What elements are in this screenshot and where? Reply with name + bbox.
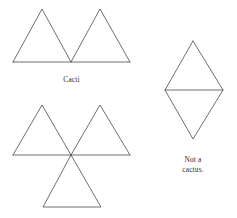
cacti-bottom-downward-triangle bbox=[43, 155, 101, 207]
geometry-diagram bbox=[0, 0, 237, 218]
cacti-top-left-triangle-sides bbox=[13, 9, 71, 62]
figure-cacti-bottom bbox=[13, 105, 130, 207]
caption-cacti: Cacti bbox=[0, 75, 143, 85]
cacti-bottom-right-triangle-sides bbox=[71, 105, 130, 155]
figure-cacti-top bbox=[13, 9, 130, 62]
figure-not-a-cactus bbox=[165, 41, 223, 139]
cacti-top-right-triangle-sides bbox=[71, 9, 130, 62]
caption-not-a-cactus-line-2: cactus. bbox=[160, 165, 226, 175]
caption-not-a-cactus-line-1: Not a bbox=[160, 155, 226, 165]
figure-canvas: Cacti Not a cactus. bbox=[0, 0, 237, 218]
cacti-bottom-left-triangle-sides bbox=[13, 105, 71, 155]
caption-not-a-cactus: Not a cactus. bbox=[160, 155, 226, 174]
